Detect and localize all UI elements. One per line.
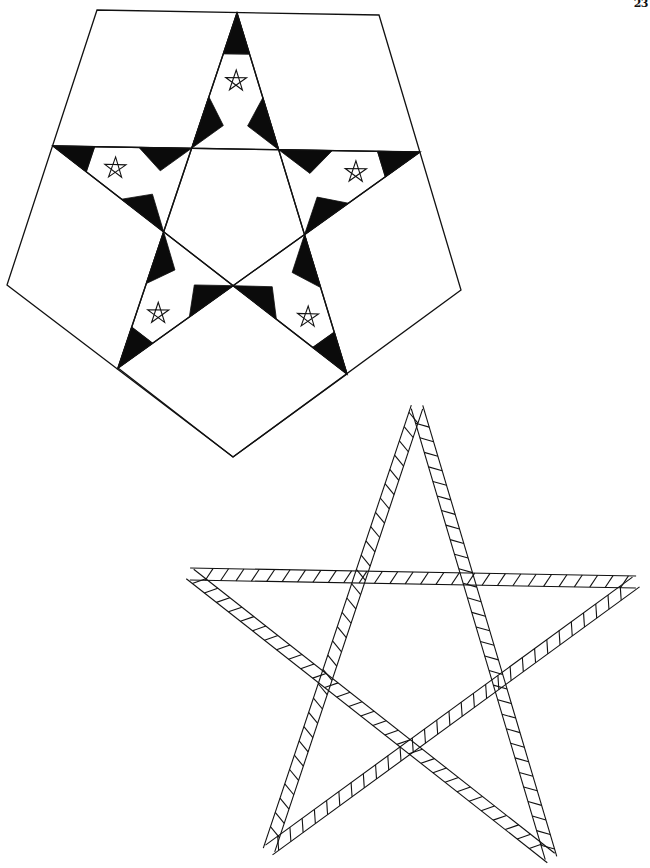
hatched-pentagram-figure: [186, 405, 639, 863]
band-edge-3: [265, 577, 639, 855]
star-arm-3: [118, 232, 233, 368]
band-edge-1: [186, 569, 554, 862]
band-edge-0: [411, 405, 557, 859]
nested-pentagram: [345, 161, 366, 181]
star-arm-0: [192, 13, 279, 150]
nested-pentagram: [297, 306, 318, 326]
nested-pentagram: [148, 302, 169, 322]
band-edge-2: [190, 568, 636, 588]
star-arm-1: [279, 150, 420, 235]
nested-pentagram: [226, 70, 247, 90]
band-edge-4: [263, 405, 422, 852]
star-arm-2: [233, 235, 347, 374]
pentagon-star-figure: [7, 10, 461, 457]
artwork-canvas: [0, 0, 650, 868]
star-arm-4: [53, 146, 192, 232]
nested-pentagram: [105, 157, 126, 177]
